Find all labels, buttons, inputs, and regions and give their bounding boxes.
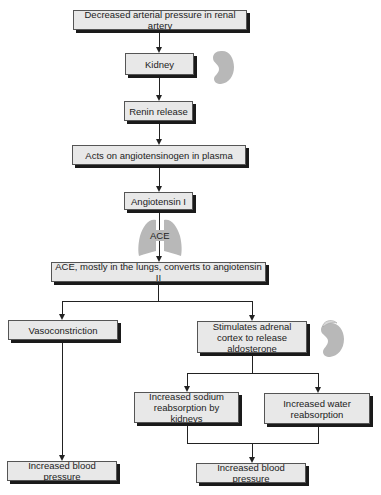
ace-edge-label: ACE: [149, 230, 171, 241]
branch-horizontal-lower: [187, 373, 319, 374]
connector-n7-n11: [62, 340, 63, 455]
kidney-icon: [211, 50, 235, 86]
connector-n4-n5: [159, 165, 160, 186]
node-label: Increased sodium reabsorption by kidneys: [138, 391, 235, 424]
merge-drop: [252, 443, 253, 457]
merge-horizontal: [187, 443, 319, 444]
node-label: Angiotensin I: [131, 196, 186, 207]
node-label: Acts on angiotensinogen in plasma: [85, 150, 232, 161]
connector-n3-n4: [159, 121, 160, 139]
node-acts-on-angiotensinogen: Acts on angiotensinogen in plasma: [72, 145, 246, 165]
branch-left-drop: [62, 301, 63, 314]
node-increased-water: Increased water reabsorption: [264, 393, 370, 424]
node-label: Renin release: [129, 106, 188, 117]
node-ace-converts: ACE, mostly in the lungs, converts to an…: [51, 262, 266, 282]
node-label: Vasoconstriction: [29, 325, 98, 336]
node-label: Increased water reabsorption: [268, 398, 366, 420]
node-increased-sodium: Increased sodium reabsorption by kidneys: [134, 392, 239, 423]
connector-n8-branch: [252, 353, 253, 373]
node-label: ACE, mostly in the lungs, converts to an…: [55, 261, 262, 283]
node-vasoconstriction: Vasoconstriction: [8, 320, 118, 340]
node-increased-bp-right: Increased blood pressure: [196, 463, 306, 483]
node-renin-release: Renin release: [124, 101, 193, 121]
branch-horizontal-top: [62, 301, 253, 302]
merge-left-rise: [187, 423, 188, 443]
node-kidney: Kidney: [125, 53, 194, 75]
node-increased-bp-left: Increased blood pressure: [7, 461, 117, 481]
node-label: Increased blood pressure: [200, 462, 302, 484]
connector-n1-n2: [159, 30, 160, 47]
node-label: Kidney: [145, 59, 174, 70]
node-angiotensin-i: Angiotensin I: [124, 192, 193, 210]
node-decreased-arterial-pressure: Decreased arterial pressure in renal art…: [73, 10, 247, 30]
node-label: Increased blood pressure: [11, 460, 113, 482]
branch-lower-right-drop: [318, 373, 319, 387]
branch-lower-left-drop: [187, 373, 188, 386]
node-label: Decreased arterial pressure in renal art…: [77, 9, 243, 31]
connector-n6-branch: [158, 282, 159, 301]
merge-right-rise: [318, 424, 319, 443]
adrenal-kidney-icon: [319, 319, 345, 359]
node-label: Stimulates adrenal cortex to release ald…: [201, 321, 303, 354]
branch-right-drop: [252, 301, 253, 315]
node-stimulates-adrenal: Stimulates adrenal cortex to release ald…: [197, 321, 307, 353]
connector-n2-n3: [159, 75, 160, 95]
